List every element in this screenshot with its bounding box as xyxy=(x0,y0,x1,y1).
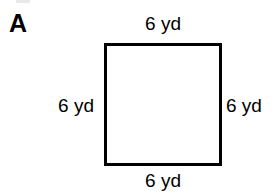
scan-artifact xyxy=(16,0,30,3)
side-label-top: 6 yd xyxy=(104,14,222,33)
square-outline xyxy=(104,43,222,166)
geometry-figure: A 6 yd 6 yd 6 yd 6 yd xyxy=(0,0,279,195)
figure-letter-label: A xyxy=(9,11,27,36)
side-label-bottom: 6 yd xyxy=(104,171,222,190)
side-label-left: 6 yd xyxy=(58,96,94,115)
side-label-right: 6 yd xyxy=(226,96,262,115)
